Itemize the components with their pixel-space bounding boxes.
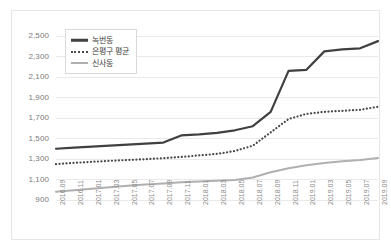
y-axis-tick-label: 2,500 [12, 32, 49, 40]
x-axis-tick-label: 2017.01 [95, 180, 102, 205]
x-axis-tick-label: 2018.11 [292, 180, 299, 205]
y-axis-tick-label: 1,500 [12, 135, 49, 143]
legend-item-1[interactable]: 은평구 평균 [71, 46, 129, 57]
y-axis-tick-label: 1,900 [12, 94, 49, 102]
legend-line-swatch-solid-dark [71, 36, 88, 45]
x-axis-tick-label: 2017.07 [148, 180, 155, 205]
x-axis-tick-label: 2016.09 [59, 180, 66, 205]
legend-item-0[interactable]: 녹번동 [71, 35, 129, 46]
y-axis-tick-label: 900 [12, 196, 49, 204]
x-axis-tick-label: 2018.05 [238, 180, 245, 205]
y-axis-tick-label: 1,700 [12, 114, 49, 122]
legend-line-swatch-solid-gray [71, 59, 88, 68]
x-axis-tick-label: 2018.03 [220, 180, 227, 205]
x-axis-tick-label: 2017.11 [184, 180, 191, 205]
x-axis-tick-label: 2018.09 [274, 180, 281, 205]
legend-item-label: 신사동 [92, 59, 113, 68]
x-axis-tick-label: 2019.03 [327, 180, 334, 205]
chart-legend: 녹번동 은평구 평균 신사동 [65, 29, 137, 74]
legend-line-swatch-dotted [71, 47, 88, 56]
chart-card: 2,5002,3002,1001,9001,7001,5001,3001,100… [11, 10, 380, 240]
x-axis-tick-label: 2017.03 [113, 180, 120, 205]
x-axis-tick-label: 2019.05 [345, 180, 352, 205]
x-axis-tick-label: 2017.05 [131, 180, 138, 205]
x-axis-tick-label: 2016.11 [77, 180, 84, 205]
x-axis-tick-label: 2019.01 [309, 180, 316, 205]
legend-item-2[interactable]: 신사동 [71, 58, 129, 69]
y-axis-tick-label: 1,300 [12, 155, 49, 163]
x-axis-tick-label: 2018.01 [202, 180, 209, 205]
x-axis-tick-label: 2019.07 [363, 180, 370, 205]
legend-item-label: 녹번동 [92, 36, 113, 45]
legend-item-label: 은평구 평균 [92, 47, 129, 56]
y-axis-tick-label: 2,300 [12, 53, 49, 61]
x-axis-tick-label: 2018.07 [256, 180, 263, 205]
x-axis-tick-label: 2017.09 [166, 180, 173, 205]
y-axis-tick-label: 2,100 [12, 73, 49, 81]
y-axis-tick-label: 1,100 [12, 176, 49, 184]
x-axis-tick-label: 2019.09 [381, 180, 388, 205]
series-line-1 [56, 107, 378, 164]
